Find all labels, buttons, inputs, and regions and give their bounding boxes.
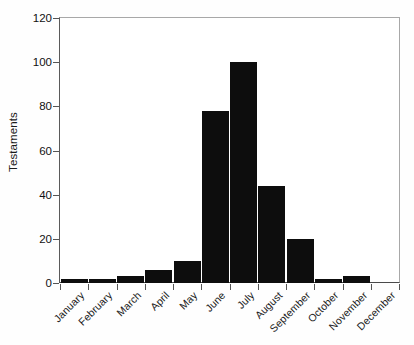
bar[interactable] xyxy=(258,18,285,283)
y-axis-title: Testaments xyxy=(0,0,26,283)
bar[interactable] xyxy=(61,18,88,283)
y-axis-title-text: Testaments xyxy=(7,112,19,172)
bar[interactable] xyxy=(315,18,342,283)
x-axis-tick-labels: JanuaryFebruaryMarchAprilMayJuneJulyAugu… xyxy=(60,289,414,345)
y-axis-tick-label: 100 xyxy=(33,56,52,68)
y-axis-tickmark xyxy=(53,195,59,196)
y-axis-tick-labels: 020406080100120 xyxy=(26,0,56,290)
x-axis-tick-label: April xyxy=(148,289,172,313)
y-axis-tick-label: 20 xyxy=(39,233,52,245)
y-axis-tickmark xyxy=(53,151,59,152)
bar[interactable] xyxy=(230,18,257,283)
bar[interactable] xyxy=(89,18,116,283)
bar-rect xyxy=(343,276,370,283)
x-axis-tick-label: May xyxy=(177,289,200,312)
bars-layer xyxy=(60,18,399,283)
bar-rect xyxy=(202,111,229,283)
y-axis-tick-label: 60 xyxy=(39,145,52,157)
bar-rect xyxy=(174,261,201,283)
bar[interactable] xyxy=(117,18,144,283)
bar[interactable] xyxy=(287,18,314,283)
bar[interactable] xyxy=(174,18,201,283)
x-axis-tick-label: March xyxy=(114,289,143,318)
y-axis-tick-label: 40 xyxy=(39,189,52,201)
y-axis-tick-label: 0 xyxy=(46,277,52,289)
y-axis-tickmark xyxy=(53,62,59,63)
bar-rect xyxy=(287,239,314,283)
bar-rect xyxy=(117,276,144,283)
bar-rect xyxy=(230,62,257,283)
bar-rect xyxy=(258,186,285,283)
bar[interactable] xyxy=(371,18,398,283)
bar-rect xyxy=(315,279,342,283)
bar[interactable] xyxy=(202,18,229,283)
y-axis-tick-label: 80 xyxy=(39,100,52,112)
bar-rect xyxy=(145,270,172,283)
x-axis-tick-label: July xyxy=(234,289,256,311)
x-axis-tick-label: June xyxy=(203,289,228,314)
bar[interactable] xyxy=(343,18,370,283)
y-axis-tick-label: 120 xyxy=(33,12,52,24)
y-axis-tickmark xyxy=(53,283,59,284)
y-axis-tickmark xyxy=(53,18,59,19)
bar-rect xyxy=(89,279,116,283)
y-axis-tickmark xyxy=(53,106,59,107)
bar-rect xyxy=(61,279,88,283)
bar-chart: Testaments 020406080100120 JanuaryFebrua… xyxy=(0,0,414,345)
bar[interactable] xyxy=(145,18,172,283)
y-axis-tickmark xyxy=(53,239,59,240)
